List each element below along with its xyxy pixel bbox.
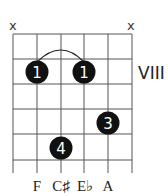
chord-diagram: x x 1 1 3 4 VIII F C♯ E♭ A xyxy=(0,0,168,196)
svg-text:3: 3 xyxy=(103,115,113,133)
finger-dot: 1 xyxy=(73,61,96,84)
strings xyxy=(13,34,132,173)
fret-position-label: VIII xyxy=(138,63,165,83)
finger-dot: 1 xyxy=(26,61,49,84)
muted-marker-string-1: x xyxy=(9,18,17,33)
finger-dot: 4 xyxy=(50,137,73,160)
note-label: F xyxy=(33,178,41,194)
svg-text:1: 1 xyxy=(79,64,89,82)
muted-marker-string-6: x xyxy=(127,18,135,33)
finger-dot: 3 xyxy=(97,112,120,135)
note-label: C♯ xyxy=(52,178,70,194)
svg-text:1: 1 xyxy=(32,64,42,82)
note-label: E♭ xyxy=(77,178,93,194)
svg-text:4: 4 xyxy=(56,140,66,158)
note-label: A xyxy=(103,178,114,194)
